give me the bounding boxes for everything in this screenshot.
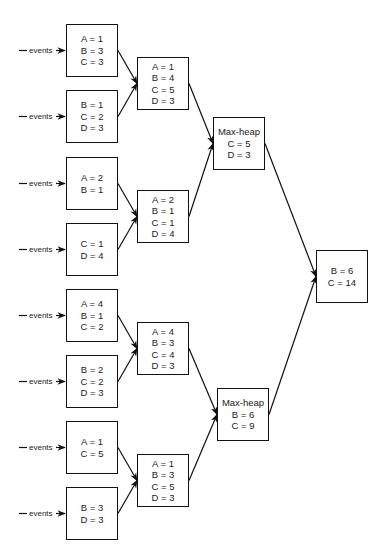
events-input-label: events (29, 509, 53, 519)
merge-node-1-line: C = 5 (152, 84, 175, 96)
events-input-label: events (29, 245, 53, 255)
leaf-node-1-line: A = 1 (81, 33, 103, 45)
leaf-node-7-line: C = 5 (81, 448, 104, 460)
leaf-node-1-line: C = 3 (81, 56, 104, 68)
leaf-node-6-line: C = 2 (81, 376, 104, 388)
merge-node-1: A = 1B = 4C = 5D = 3 (137, 57, 189, 110)
merge-node-4-line: D = 3 (152, 492, 175, 504)
merge-node-4: A = 1B = 3C = 5D = 3 (137, 454, 189, 507)
leaf-node-3: A = 2B = 1 (66, 157, 118, 210)
leaf-node-8: B = 3D = 3 (66, 487, 118, 540)
leaf-node-5-line: B = 1 (81, 310, 103, 322)
merge-node-1-line: A = 1 (152, 61, 174, 73)
max-heap-node-1: Max-heapC = 5D = 3 (213, 117, 265, 170)
leaf-node-2-line: D = 3 (81, 122, 104, 134)
result-node-line: C = 14 (328, 277, 356, 289)
merge-node-4-line: A = 1 (152, 458, 174, 470)
merge-node-3: A = 4B = 3C = 4D = 3 (137, 322, 189, 375)
leaf-node-4-line: D = 4 (81, 250, 104, 262)
merge-node-3-line: B = 3 (152, 337, 174, 349)
merge-node-2-line: B = 1 (152, 205, 174, 217)
leaf-node-3-line: B = 1 (81, 184, 103, 196)
max-heap-node-2-line: B = 6 (232, 409, 254, 421)
leaf-node-1-line: B = 3 (81, 45, 103, 57)
leaf-node-1: A = 1B = 3C = 3 (66, 24, 118, 77)
merge-node-3-line: D = 3 (152, 360, 175, 372)
leaf-node-5-line: A = 4 (81, 298, 103, 310)
leaf-node-6-line: B = 2 (81, 364, 103, 376)
max-heap-node-1-line: Max-heap (218, 126, 260, 138)
merge-node-3-line: C = 4 (152, 349, 175, 361)
max-heap-node-2-line: C = 9 (232, 420, 255, 432)
leaf-node-6-line: D = 3 (81, 387, 104, 399)
merge-node-4-line: B = 3 (152, 469, 174, 481)
leaf-node-2: B = 1C = 2D = 3 (66, 90, 118, 143)
merge-node-2: A = 2B = 1C = 1D = 4 (137, 190, 189, 243)
leaf-node-3-line: A = 2 (81, 172, 103, 184)
events-input-label: events (29, 377, 53, 387)
leaf-node-7: A = 1C = 5 (66, 421, 118, 474)
merge-node-4-line: C = 5 (152, 481, 175, 493)
max-heap-node-2-line: Max-heap (222, 397, 264, 409)
merge-node-1-line: D = 3 (152, 95, 175, 107)
leaf-node-6: B = 2C = 2D = 3 (66, 355, 118, 408)
merge-node-2-line: D = 4 (152, 228, 175, 240)
leaf-node-2-line: C = 2 (81, 111, 104, 123)
result-node: B = 6C = 14 (316, 250, 368, 303)
leaf-node-2-line: B = 1 (81, 99, 103, 111)
leaf-node-5: A = 4B = 1C = 2 (66, 289, 118, 342)
max-heap-node-1-line: C = 5 (228, 138, 251, 150)
events-input-label: events (29, 112, 53, 122)
merge-node-3-line: A = 4 (152, 326, 174, 338)
leaf-node-4-line: C = 1 (81, 238, 104, 250)
merge-node-2-line: C = 1 (152, 217, 175, 229)
events-input-label: events (29, 179, 53, 189)
events-input-label: events (29, 443, 53, 453)
leaf-node-4: C = 1D = 4 (66, 223, 118, 276)
events-input-label: events (29, 46, 53, 56)
leaf-node-5-line: C = 2 (81, 321, 104, 333)
leaf-node-8-line: D = 3 (81, 514, 104, 526)
max-heap-node-2: Max-heapB = 6C = 9 (217, 388, 269, 441)
leaf-node-7-line: A = 1 (81, 436, 103, 448)
events-input-label: events (29, 311, 53, 321)
result-node-line: B = 6 (331, 265, 353, 277)
max-heap-node-1-line: D = 3 (228, 149, 251, 161)
merge-node-2-line: A = 2 (152, 194, 174, 206)
merge-node-1-line: B = 4 (152, 72, 174, 84)
leaf-node-8-line: B = 3 (81, 502, 103, 514)
